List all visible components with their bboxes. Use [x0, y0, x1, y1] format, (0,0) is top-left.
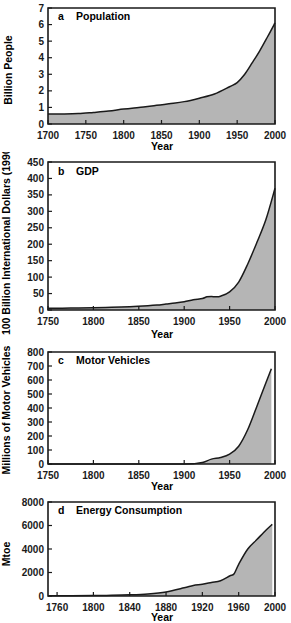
c-x-tick-label: 1800 — [82, 470, 105, 481]
a-y-tick-label: 3 — [38, 69, 44, 80]
d-x-tick-label: 2000 — [264, 602, 287, 613]
chart-panel-population: 01234567 1700175018001850190019502000 a … — [0, 0, 291, 152]
a-y-tick-label: 7 — [38, 3, 44, 14]
c-x-tick-label: 1900 — [173, 470, 196, 481]
b-y-tick-label: 50 — [33, 288, 45, 299]
a-x-tick-label: 1700 — [37, 130, 60, 141]
panel-letter-b: b — [58, 165, 64, 177]
b-y-tick-label: 450 — [27, 157, 44, 168]
motor-vehicles-y-axis-title: Millions of Motor Vehicles — [0, 345, 12, 474]
chart-panel-energy-consumption: 02000400060008000 1760180018401880192019… — [0, 492, 291, 623]
b-x-tick-label: 1950 — [218, 316, 241, 327]
b-x-tick-label: 1850 — [128, 316, 151, 327]
c-y-tick-label: 600 — [27, 375, 44, 386]
motor-vehicles-chart-svg: 0100200300400500600700800 17501800185019… — [0, 340, 291, 492]
gdp-x-tick-labels: 175018001850190019502000 — [37, 316, 287, 327]
c-y-tick-label: 700 — [27, 361, 44, 372]
d-y-tick-label: 0 — [38, 591, 44, 602]
a-x-tick-label: 1750 — [75, 130, 98, 141]
a-x-tick-label: 2000 — [264, 130, 287, 141]
panel-title-motor-vehicles: Motor Vehicles — [76, 354, 150, 366]
population-area-fill — [48, 23, 275, 124]
d-y-tick-label: 4000 — [22, 544, 45, 555]
b-x-tick-label: 2000 — [264, 316, 287, 327]
c-x-tick-label: 2000 — [264, 470, 287, 481]
population-y-tick-labels: 01234567 — [38, 3, 44, 130]
a-y-tick-label: 4 — [38, 52, 44, 63]
b-x-tick-label: 1750 — [37, 316, 60, 327]
d-y-tick-label: 2000 — [22, 567, 45, 578]
c-y-tick-label: 0 — [38, 459, 44, 470]
gdp-area-fill — [48, 188, 275, 310]
a-y-tick-label: 6 — [38, 19, 44, 30]
a-y-tick-label: 2 — [38, 85, 44, 96]
a-y-tick-label: 5 — [38, 36, 44, 47]
b-y-tick-label: 0 — [38, 305, 44, 316]
panel-letter-d: d — [58, 504, 64, 516]
b-x-tick-label: 1800 — [82, 316, 105, 327]
energy-consumption-y-axis-title: Mtoe — [0, 542, 12, 567]
b-y-tick-label: 150 — [27, 255, 44, 266]
energy-consumption-area-fill — [48, 524, 272, 596]
a-x-tick-label: 1900 — [188, 130, 211, 141]
d-x-tick-label: 1920 — [191, 602, 214, 613]
panel-title-population: Population — [76, 10, 130, 22]
motor-vehicles-area-fill — [48, 369, 271, 464]
b-y-tick-label: 350 — [27, 189, 44, 200]
gdp-x-axis-title: Year — [151, 328, 173, 340]
gdp-y-tick-labels: 050100150200250300350400450 — [27, 157, 44, 316]
d-y-tick-label: 6000 — [22, 520, 45, 531]
c-y-tick-label: 200 — [27, 431, 44, 442]
energy-consumption-y-tick-labels: 02000400060008000 — [22, 497, 45, 602]
chart-panel-gdp: 050100150200250300350400450 175018001850… — [0, 152, 291, 340]
d-x-tick-label: 1800 — [82, 602, 105, 613]
d-x-tick-label: 1760 — [46, 602, 69, 613]
panel-title-energy-consumption: Energy Consumption — [76, 504, 182, 516]
energy-consumption-x-axis-title: Year — [151, 611, 173, 623]
gdp-y-axis-title: 100 Billion International Dollars (1990) — [0, 152, 12, 335]
c-y-tick-label: 500 — [27, 389, 44, 400]
a-x-tick-label: 1800 — [113, 130, 136, 141]
c-y-tick-label: 400 — [27, 403, 44, 414]
energy-consumption-chart-svg: 02000400060008000 1760180018401880192019… — [0, 492, 291, 623]
c-y-tick-label: 800 — [27, 347, 44, 358]
b-x-tick-label: 1900 — [173, 316, 196, 327]
c-y-tick-label: 100 — [27, 445, 44, 456]
a-y-tick-label: 0 — [38, 119, 44, 130]
panel-letter-a: a — [58, 10, 64, 22]
chart-panel-motor-vehicles: 0100200300400500600700800 17501800185019… — [0, 340, 291, 492]
d-x-tick-label: 1960 — [228, 602, 251, 613]
d-x-tick-label: 1840 — [119, 602, 142, 613]
b-y-tick-label: 200 — [27, 239, 44, 250]
great-acceleration-figure: 01234567 1700175018001850190019502000 a … — [0, 0, 291, 623]
c-y-tick-label: 300 — [27, 417, 44, 428]
b-y-tick-label: 300 — [27, 206, 44, 217]
population-x-axis-title: Year — [151, 140, 173, 152]
d-y-tick-label: 8000 — [22, 497, 45, 508]
c-x-tick-label: 1850 — [128, 470, 151, 481]
population-y-axis-title: Billion People — [2, 35, 14, 105]
c-x-tick-label: 1750 — [37, 470, 60, 481]
b-y-tick-label: 400 — [27, 173, 44, 184]
a-y-tick-label: 1 — [38, 102, 44, 113]
panel-title-gdp: GDP — [76, 165, 99, 177]
b-y-tick-label: 100 — [27, 272, 44, 283]
gdp-chart-svg: 050100150200250300350400450 175018001850… — [0, 152, 291, 340]
panel-letter-c: c — [58, 354, 64, 366]
motor-vehicles-x-axis-title: Year — [151, 480, 173, 492]
population-chart-svg: 01234567 1700175018001850190019502000 a … — [0, 0, 291, 152]
a-x-tick-label: 1950 — [226, 130, 249, 141]
b-y-tick-label: 250 — [27, 222, 44, 233]
c-x-tick-label: 1950 — [218, 470, 241, 481]
motor-vehicles-y-tick-labels: 0100200300400500600700800 — [27, 347, 44, 470]
